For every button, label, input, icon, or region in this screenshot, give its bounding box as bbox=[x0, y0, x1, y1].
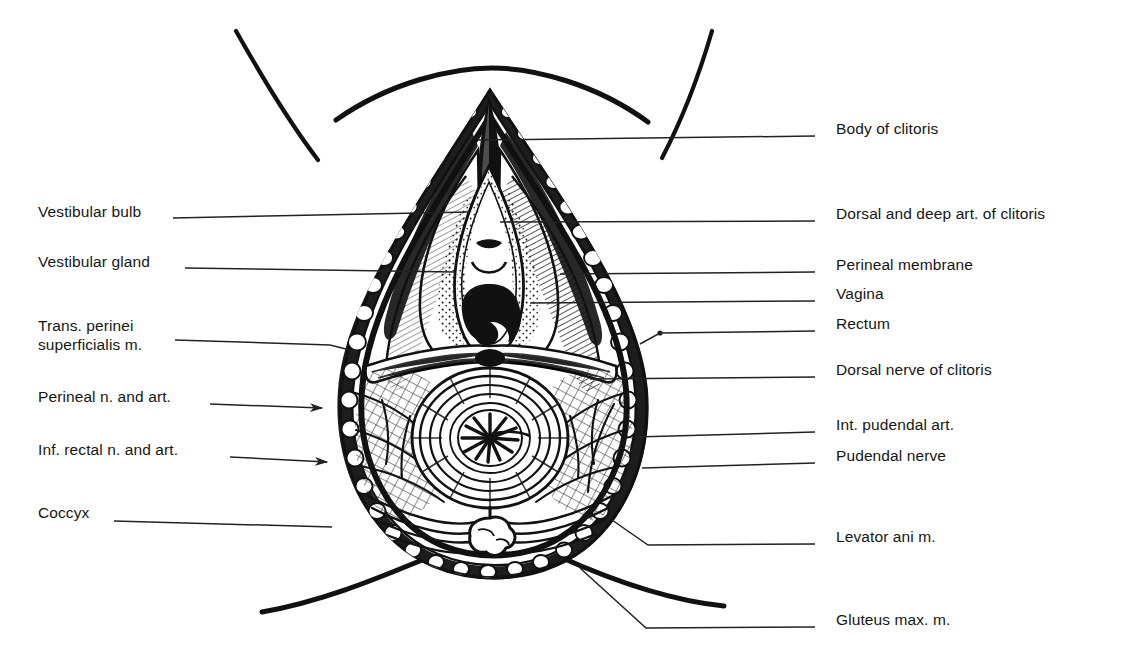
leader-rectum-dot bbox=[657, 330, 662, 335]
label-vestibular-gland: Vestibular gland bbox=[38, 253, 150, 271]
label-gluteus-max-m: Gluteus max. m. bbox=[836, 611, 950, 629]
label-levator-ani-m: Levator ani m. bbox=[836, 528, 936, 546]
label-perineal-membrane: Perineal membrane bbox=[836, 256, 973, 274]
label-int-pudendal-art: Int. pudendal art. bbox=[836, 416, 954, 434]
label-dorsal-nerve-of-clitoris: Dorsal nerve of clitoris bbox=[836, 361, 992, 379]
label-coccyx: Coccyx bbox=[38, 504, 89, 522]
label-trans-perinei: Trans. perinei bbox=[38, 317, 134, 335]
anatomical-figure: Vestibular bulb Vestibular gland Trans. … bbox=[0, 0, 1142, 660]
perineum-drawing bbox=[0, 0, 1142, 660]
label-vagina: Vagina bbox=[836, 285, 884, 303]
leader-dorsal-deep-art bbox=[500, 221, 815, 222]
label-vestibular-bulb: Vestibular bulb bbox=[38, 203, 141, 221]
label-rectum: Rectum bbox=[836, 315, 890, 333]
label-pudendal-nerve: Pudendal nerve bbox=[836, 447, 946, 465]
label-inf-rectal-n-and-art: Inf. rectal n. and art. bbox=[38, 441, 178, 459]
label-trans-perinei-line2: superficialis m. bbox=[38, 336, 142, 354]
anal-canal bbox=[412, 368, 568, 508]
label-body-of-clitoris: Body of clitoris bbox=[836, 120, 938, 138]
label-dorsal-and-deep-art: Dorsal and deep art. of clitoris bbox=[836, 205, 1045, 223]
label-perineal-n-and-art: Perineal n. and art. bbox=[38, 388, 171, 406]
